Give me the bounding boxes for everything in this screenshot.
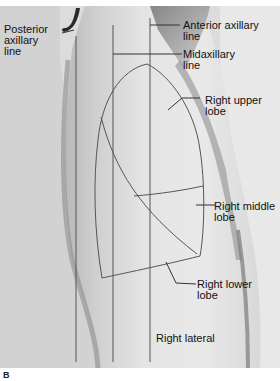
label-anterior-axillary-line: Anterior axillary line bbox=[183, 20, 259, 42]
label-posterior-axillary-line: Posterior axillary line bbox=[4, 24, 48, 57]
panel-letter: B bbox=[3, 370, 10, 380]
label-right-middle-lobe: Right middle lobe bbox=[214, 201, 275, 223]
label-view-right-lateral: Right lateral bbox=[156, 333, 215, 344]
anatomy-figure: Posterior axillary line Anterior axillar… bbox=[0, 0, 280, 381]
label-right-lower-lobe: Right lower lobe bbox=[197, 279, 252, 301]
label-midaxillary-line: Midaxillary line bbox=[183, 49, 235, 71]
torso-photo bbox=[0, 6, 280, 368]
torso-illustration bbox=[0, 6, 280, 368]
label-right-upper-lobe: Right upper lobe bbox=[205, 95, 262, 117]
